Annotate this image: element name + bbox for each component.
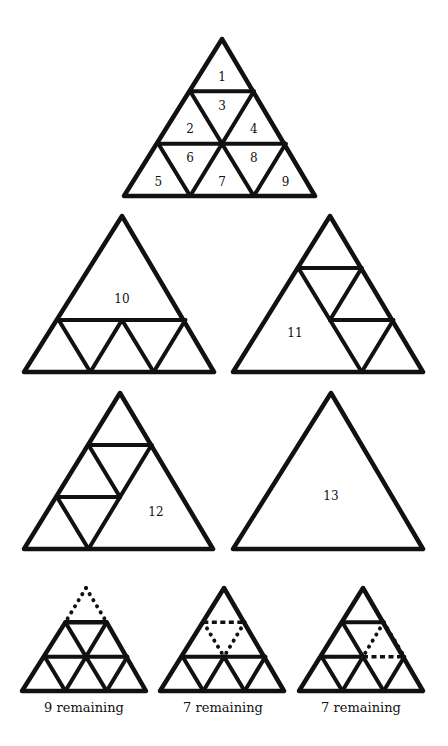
triangle-outline: [233, 216, 423, 372]
figure-remove-right: [299, 588, 423, 691]
figure-triangle-10: 10: [24, 216, 214, 372]
figure-triangle-13: 13: [233, 393, 423, 549]
triangle-number-8: 8: [250, 151, 258, 165]
triangle-number-2: 2: [186, 122, 194, 136]
triangle-outline: [299, 588, 423, 691]
triangle-number-3: 3: [218, 99, 226, 113]
triangle-number-6: 6: [186, 151, 194, 165]
triangle-number-1: 1: [218, 70, 226, 84]
triangle-outline: [160, 588, 284, 691]
figure-full-grid: 123456789: [124, 39, 315, 196]
triangle-number-7: 7: [218, 175, 226, 189]
triangle-outline: [233, 393, 423, 549]
triangle-number-4: 4: [250, 122, 258, 136]
triangle-number-12: 12: [148, 505, 163, 519]
triangle-number-9: 9: [282, 175, 290, 189]
caption-7-remaining-center: 7 remaining: [183, 700, 263, 715]
figure-remove-center: [160, 588, 284, 691]
triangle-number-11: 11: [287, 326, 302, 340]
caption-9-remaining: 9 remaining: [44, 700, 124, 715]
caption-7-remaining-right: 7 remaining: [321, 700, 401, 715]
triangle-outline: [24, 393, 213, 549]
triangle-outline: [124, 39, 315, 196]
triangle-number-10: 10: [114, 292, 129, 306]
figure-triangle-12: 12: [24, 393, 213, 549]
figure-triangle-11: 11: [233, 216, 423, 372]
triangle-number-13: 13: [323, 489, 338, 503]
removed-edge-dotted: [86, 588, 107, 622]
triangle-diagram: 123456789 10 11 12 13 9 remaining 7 rema…: [0, 0, 448, 746]
figure-remove-top: [22, 588, 146, 691]
triangle-number-5: 5: [155, 175, 163, 189]
removed-edge-dotted: [65, 588, 86, 622]
